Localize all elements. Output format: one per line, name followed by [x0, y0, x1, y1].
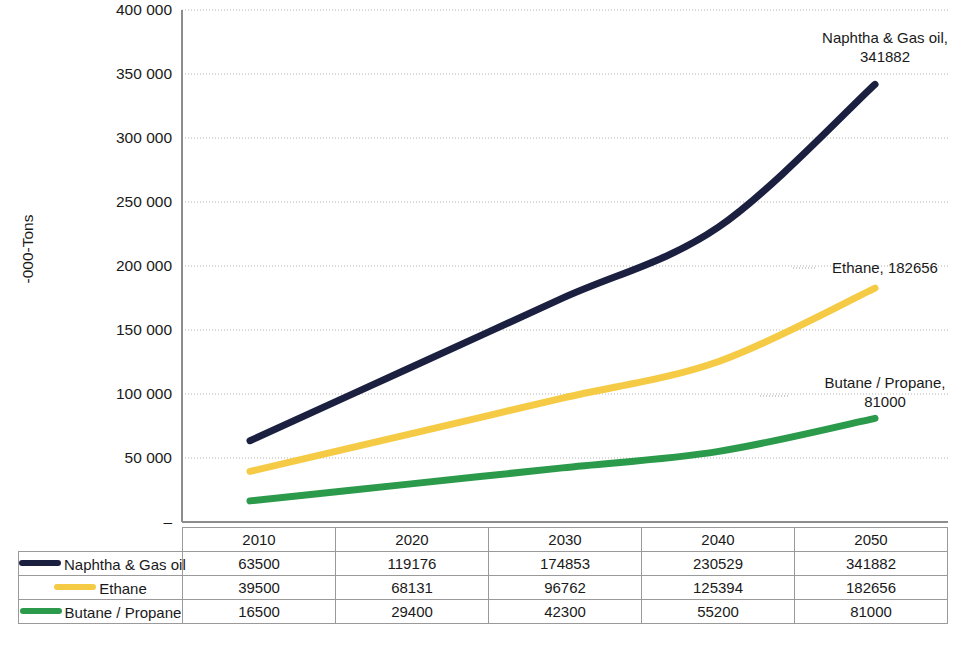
y-axis-tick-label: 150 000 — [92, 322, 172, 337]
table-cell: 39500 — [183, 576, 336, 600]
table-row-label-cell: Ethane — [19, 576, 183, 600]
table-row-label-cell: Butane / Propane — [19, 600, 183, 624]
y-axis-tick-label: 300 000 — [92, 130, 172, 145]
table-column-header-2040: 2040 — [642, 528, 795, 552]
table-cell: 182656 — [795, 576, 948, 600]
y-axis-title: -000-Tons — [19, 169, 37, 329]
legend-label: Ethane — [99, 580, 147, 597]
chart-container: –50 000100 000150 000200 000250 000300 0… — [0, 0, 973, 647]
legend-swatch-icon — [19, 560, 61, 566]
annotation-ethane-line1: Ethane, 182656 — [800, 258, 970, 277]
data-table: 20102020203020402050 Naphtha & Gas oil63… — [18, 527, 948, 624]
legend-label: Naphtha & Gas oil — [64, 556, 186, 573]
table-row-label-cell: Naphtha & Gas oil — [19, 552, 183, 576]
annotation-naphtha: Naphtha & Gas oil, 341882 — [800, 28, 970, 66]
annotation-butane-line2: 81000 — [795, 392, 973, 411]
y-axis-tick-label: 100 000 — [92, 386, 172, 401]
y-axis-tick-label: 350 000 — [92, 66, 172, 81]
table-cell: 16500 — [183, 600, 336, 624]
table-row: Naphtha & Gas oil63500119176174853230529… — [19, 552, 948, 576]
table-cell: 63500 — [183, 552, 336, 576]
legend-swatch-icon — [54, 584, 96, 590]
annotation-butane-line1: Butane / Propane, — [795, 373, 973, 392]
table-cell: 341882 — [795, 552, 948, 576]
table-row: Ethane395006813196762125394182656 — [19, 576, 948, 600]
table-column-header-2020: 2020 — [336, 528, 489, 552]
y-axis-tick-label: 50 000 — [92, 450, 172, 465]
table-cell: 68131 — [336, 576, 489, 600]
series-line-ethane — [250, 288, 875, 471]
table-cell: 81000 — [795, 600, 948, 624]
y-axis-tick-label: 200 000 — [92, 258, 172, 273]
table-cell: 174853 — [489, 552, 642, 576]
table-cell: 119176 — [336, 552, 489, 576]
y-axis-tick-label: 250 000 — [92, 194, 172, 209]
annotation-naphtha-line1: Naphtha & Gas oil, — [800, 28, 970, 47]
legend-label: Butane / Propane — [65, 604, 182, 621]
annotation-ethane: Ethane, 182656 — [800, 258, 970, 277]
table-cell: 29400 — [336, 600, 489, 624]
table-cell: 42300 — [489, 600, 642, 624]
table-cell: 55200 — [642, 600, 795, 624]
table-column-header-2050: 2050 — [795, 528, 948, 552]
series-line-butane-propane — [250, 418, 875, 501]
series-lines — [250, 84, 875, 500]
table-column-header-2030: 2030 — [489, 528, 642, 552]
table-corner-cell — [19, 528, 183, 552]
annotation-naphtha-line2: 341882 — [800, 47, 970, 66]
y-axis-tick-label: 400 000 — [92, 2, 172, 17]
series-line-naphtha-gas-oil — [250, 84, 875, 440]
table-row: Butane / Propane165002940042300552008100… — [19, 600, 948, 624]
table-cell: 125394 — [642, 576, 795, 600]
legend-swatch-icon — [20, 608, 62, 614]
table-header-row: 20102020203020402050 — [19, 528, 948, 552]
table-cell: 96762 — [489, 576, 642, 600]
table-cell: 230529 — [642, 552, 795, 576]
annotation-butane: Butane / Propane, 81000 — [795, 373, 973, 411]
table-body: Naphtha & Gas oil63500119176174853230529… — [19, 552, 948, 624]
table-column-header-2010: 2010 — [183, 528, 336, 552]
